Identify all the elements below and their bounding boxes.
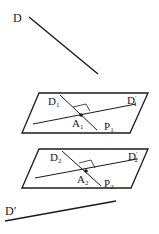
diagram-canvas: D D1 D′1 A1 P1 D2 D′2 A2 P2 D′ [0,0,159,234]
plane-1-group: D1 D′1 A1 P1 [22,93,148,134]
label-a2: A2 [77,173,89,187]
label-p2: P2 [104,177,114,191]
label-d1: D1 [48,95,60,109]
label-d1-prime: D′1 [127,94,137,108]
line-d-prime [5,201,116,221]
line-d-prime-group: D′ [5,201,116,221]
plane-2-group: D2 D′2 A2 P2 [22,149,148,191]
label-p1: P1 [104,120,114,134]
line-d-label: D [13,11,22,25]
projection-d1-prime-line [33,104,136,124]
line-d [29,17,98,74]
line-d-prime-label: D′ [5,204,17,218]
label-d2-prime: D′2 [128,150,138,164]
line-d-group: D [13,11,98,74]
label-a1: A1 [72,117,84,131]
label-d2: D2 [50,151,62,165]
